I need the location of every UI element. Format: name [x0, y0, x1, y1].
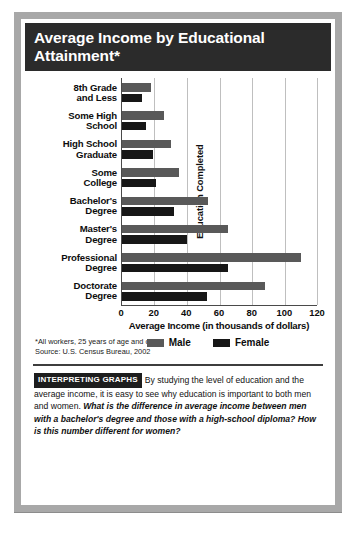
chart: Education Completed 8th Gradeand LessSom…	[25, 71, 331, 329]
bar-male	[122, 253, 301, 262]
section-divider	[33, 364, 323, 365]
bar-female	[122, 235, 187, 244]
chart-title: Average Income by Educational Attainment…	[25, 23, 331, 71]
x-axis-label: Average Income (in thousands of dollars)	[121, 320, 317, 331]
bar-male	[122, 168, 179, 177]
bar-group: High SchoolGraduate	[122, 136, 317, 162]
bar-group: DoctorateDegree	[122, 278, 317, 304]
bar-group: Some HighSchool	[122, 108, 317, 134]
category-label: SomeCollege	[25, 167, 117, 188]
legend-swatch	[147, 339, 164, 347]
bar-female	[122, 150, 153, 159]
gridline	[317, 78, 318, 305]
x-axis-ticks: 020406080100120	[121, 306, 317, 319]
figure-frame: Average Income by Educational Attainment…	[14, 12, 342, 512]
x-tick-label: 80	[246, 307, 256, 318]
bar-female	[122, 94, 142, 103]
x-tick-label: 40	[181, 307, 191, 318]
bar-male	[122, 140, 171, 149]
chart-legend: MaleFemale	[25, 337, 331, 348]
x-tick-label: 0	[118, 307, 123, 318]
bar-male	[122, 197, 208, 206]
bar-male	[122, 282, 265, 291]
figure-page: Average Income by Educational Attainment…	[0, 0, 356, 534]
x-tick-label: 60	[214, 307, 224, 318]
bar-male	[122, 83, 151, 92]
bar-group: SomeCollege	[122, 165, 317, 191]
bar-group: 8th Gradeand Less	[122, 80, 317, 106]
bar-female	[122, 179, 156, 188]
bar-female	[122, 207, 174, 216]
legend-label: Male	[169, 337, 191, 348]
category-label: Some HighSchool	[25, 111, 117, 132]
bar-group: ProfessionalDegree	[122, 250, 317, 276]
bar-male	[122, 111, 164, 120]
category-label: DoctorateDegree	[25, 281, 117, 302]
interpreting-graphs-block: INTERPRETING GRAPHSBy studying the level…	[34, 373, 322, 438]
x-tick-label: 120	[309, 307, 325, 318]
category-label: ProfessionalDegree	[25, 252, 117, 273]
category-label: High SchoolGraduate	[25, 139, 117, 160]
category-label: 8th Gradeand Less	[25, 82, 117, 103]
bar-female	[122, 122, 146, 131]
footnote-line-2: Source: U.S. Census Bureau, 2002	[35, 347, 331, 357]
bar-female	[122, 292, 207, 301]
bar-rows: 8th Gradeand LessSome HighSchoolHigh Sch…	[122, 78, 317, 305]
legend-item-male: Male	[147, 337, 191, 348]
x-tick-label: 100	[277, 307, 293, 318]
figure-content: Average Income by Educational Attainment…	[21, 19, 335, 505]
bar-female	[122, 264, 228, 273]
legend-item-female: Female	[213, 337, 269, 348]
plot-wrap: Education Completed 8th Gradeand LessSom…	[121, 78, 317, 306]
x-tick-label: 20	[148, 307, 158, 318]
plot-area: 8th Gradeand LessSome HighSchoolHigh Sch…	[121, 78, 317, 306]
bar-group: Master'sDegree	[122, 221, 317, 247]
interpreting-graphs-tag: INTERPRETING GRAPHS	[34, 373, 142, 388]
category-label: Bachelor'sDegree	[25, 196, 117, 217]
legend-label: Female	[235, 337, 269, 348]
legend-swatch	[213, 339, 230, 347]
category-label: Master'sDegree	[25, 224, 117, 245]
bar-male	[122, 225, 228, 234]
bar-group: Bachelor'sDegree	[122, 193, 317, 219]
